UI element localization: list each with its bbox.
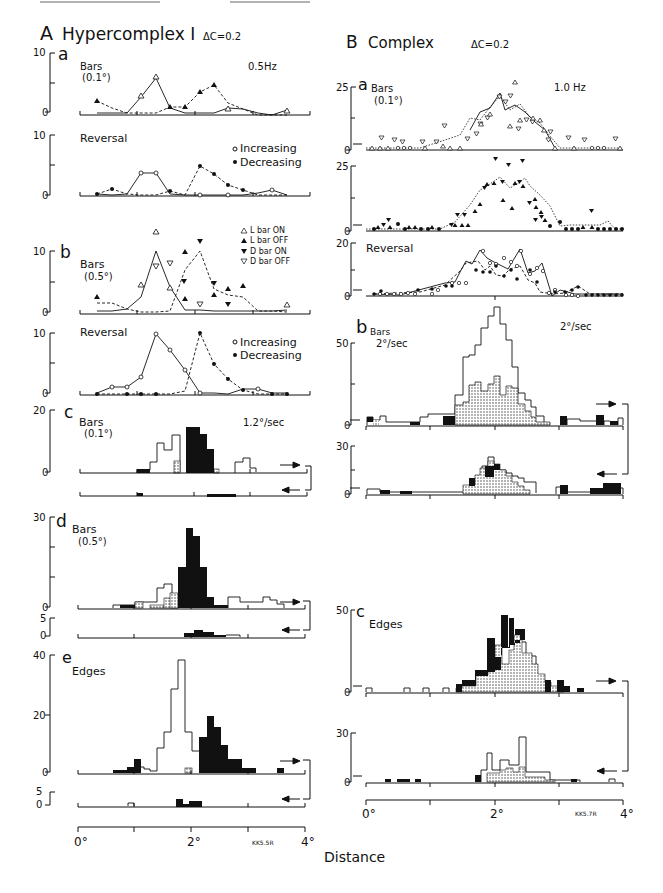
y-tick-label: 0	[344, 291, 350, 302]
y-tick-label: 10	[33, 328, 46, 339]
x-tick-label: 0°	[362, 807, 376, 821]
panel-b-delta-c: ΔC=0.2	[471, 39, 509, 50]
reversal-label: Reversal	[80, 326, 127, 339]
arrow-right-icon	[280, 758, 300, 764]
legend-increasing: Increasing	[240, 142, 297, 155]
legend-l-bar-off: L bar OFF	[250, 236, 289, 245]
reversal-label: Reversal	[366, 242, 413, 255]
bracket	[305, 466, 311, 490]
arrow-left-icon	[282, 627, 300, 633]
y-tick-label: 0	[344, 145, 350, 156]
x-axis-a: 0° 2° 4° KK5.5R	[74, 827, 315, 849]
chart-b-c: 50 0 c Edges 30 0	[336, 602, 628, 788]
y-tick-label: 25	[336, 161, 349, 172]
chart-b-a-3: 20 0 Reversal	[336, 238, 624, 302]
y-tick-label: 30	[336, 728, 349, 739]
speed-label: 2°/sec	[560, 321, 592, 332]
panel-b-letter: B	[346, 32, 358, 52]
stim-label: Edges	[72, 665, 106, 678]
y-tick-label: 20	[33, 710, 46, 721]
panel-a-title: Hypercomplex I	[62, 24, 195, 44]
x-axis-b: 0° 2° 4° KK5.7R	[362, 800, 634, 821]
subpanel-letter: c	[64, 402, 73, 422]
y-tick-label: 0	[344, 226, 350, 237]
chart-a-b: 10 0 b Bars (0.5°) L bar ON L bar OFF D …	[33, 226, 310, 399]
width-label: 2°/sec	[376, 338, 408, 349]
y-tick-label: 0	[42, 107, 48, 118]
y-tick-label: 10	[33, 246, 46, 257]
arrow-left-icon	[282, 796, 300, 802]
y-tick-label: 0	[36, 799, 42, 810]
x-tick-label: 2°	[187, 835, 201, 849]
chart-a-c: 20 0 c Bars (0.1°) 1.2°/sec	[33, 402, 311, 497]
y-tick-label: 25	[336, 82, 349, 93]
y-tick-label: 0	[344, 489, 350, 500]
y-tick-label: 10	[33, 130, 46, 141]
y-tick-label: 0	[42, 767, 48, 778]
subpanel-letter: b	[60, 242, 71, 262]
y-tick-label: 0	[42, 307, 48, 318]
width-label: (0.1°)	[82, 72, 111, 83]
chart-a-e: 40 20 0 e Edges 5 0	[33, 648, 310, 810]
legend-l-bar-on: L bar ON	[250, 226, 285, 235]
y-tick-label: 20	[33, 405, 46, 416]
figure-canvas: A Hypercomplex I ΔC=0.2 10 0 a Bars (0.1…	[0, 0, 663, 893]
freq-label: 0.5Hz	[248, 61, 277, 72]
stim-label: Bars	[72, 523, 97, 536]
width-label: (0.1°)	[374, 95, 403, 106]
subpanel-letter: c	[356, 602, 365, 621]
arrow-right-icon	[596, 401, 616, 407]
y-tick-label: 30	[336, 441, 349, 452]
subpanel-letter: a	[358, 75, 368, 94]
chart-b-b: 50 0 b Bars 2°/sec 2°/sec	[336, 307, 628, 500]
figure-code: KK5.5R	[252, 839, 274, 846]
subpanel-letter: b	[356, 316, 367, 337]
chart-a-d: 30 0 d Bars (0.5°) 5 0	[33, 511, 310, 641]
legend-d-bar-off: D bar OFF	[250, 257, 290, 266]
x-axis-title: Distance	[324, 849, 385, 865]
legend-decreasing: Decreasing	[240, 349, 302, 362]
y-tick-label: 0	[42, 467, 48, 478]
y-tick-label: 0	[344, 687, 350, 698]
chart-a-a: 10 0 a Bars (0.1°) 0.5Hz 10 0 Reversal	[33, 44, 310, 201]
subpanel-letter: d	[56, 511, 67, 531]
arrow-left-icon	[597, 768, 617, 774]
panel-a-delta-c: ΔC=0.2	[203, 31, 241, 42]
subpanel-letter: a	[58, 44, 68, 64]
y-tick-label: 0	[344, 777, 350, 788]
stim-label: Bars	[370, 327, 390, 337]
arrow-left-icon	[597, 471, 617, 477]
legend-decreasing: Decreasing	[240, 156, 302, 169]
legend-increasing: Increasing	[240, 336, 297, 349]
x-tick-label: 2°	[490, 807, 504, 821]
y-tick-label: 10	[33, 47, 46, 58]
bracket	[622, 404, 628, 474]
y-tick-label: 0	[42, 190, 48, 201]
width-label: (0.5°)	[84, 271, 113, 282]
panel-a-letter: A	[40, 22, 53, 44]
arrow-right-icon	[596, 678, 616, 684]
legend-d-bar-on: D bar ON	[250, 247, 287, 256]
panel-b-title: Complex	[368, 34, 434, 52]
x-tick-label: 0°	[74, 835, 88, 849]
speed-label: 1.2°/sec	[243, 417, 284, 428]
y-tick-label: 40	[33, 650, 46, 661]
reversal-label: Reversal	[80, 132, 127, 145]
y-tick-label: 0	[40, 630, 46, 641]
arrow-left-icon	[282, 487, 300, 493]
width-label: (0.1°)	[84, 428, 113, 439]
y-tick-label: 0	[42, 602, 48, 613]
x-tick-label: 4°	[301, 835, 315, 849]
bracket	[303, 601, 310, 630]
y-tick-label: 30	[33, 512, 46, 523]
chart-b-a-1: 25 0 a Bars (0.1°) 1.0 Hz	[336, 75, 623, 156]
x-tick-label: 4°	[620, 807, 634, 821]
freq-label: 1.0 Hz	[554, 82, 586, 93]
panel-a: A Hypercomplex I ΔC=0.2 10 0 a Bars (0.1…	[33, 22, 315, 849]
bracket	[303, 760, 310, 799]
figure-code: KK5.7R	[575, 810, 597, 817]
width-label: (0.5°)	[78, 536, 107, 547]
y-tick-label: 5	[36, 786, 42, 797]
arrow-right-icon	[280, 462, 300, 468]
stim-label: Bars	[80, 258, 105, 271]
